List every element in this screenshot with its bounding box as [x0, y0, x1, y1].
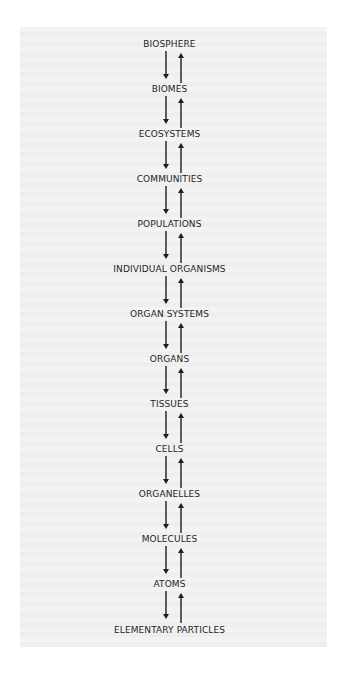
down-arrow-icon — [163, 501, 169, 529]
level-ecosystems: ECOSYSTEMS — [0, 128, 339, 140]
arrow-pair-11 — [160, 501, 188, 534]
up-arrow-icon — [178, 593, 184, 623]
down-arrow-icon — [163, 366, 169, 394]
down-arrow-icon — [163, 546, 169, 574]
arrow-pair-5 — [160, 231, 188, 264]
arrow-pair-7 — [160, 321, 188, 354]
level-organ-systems: ORGAN SYSTEMS — [0, 308, 339, 320]
arrow-pair-9 — [160, 411, 188, 444]
level-atoms: ATOMS — [0, 578, 339, 590]
arrow-pair-8 — [160, 366, 188, 399]
up-arrow-icon — [178, 368, 184, 398]
level-tissues: TISSUES — [0, 398, 339, 410]
arrow-pair-1 — [160, 51, 188, 84]
arrow-pair-10 — [160, 456, 188, 489]
level-biosphere: BIOSPHERE — [0, 38, 339, 50]
up-arrow-icon — [178, 548, 184, 578]
level-organelles: ORGANELLES — [0, 488, 339, 500]
arrow-pair-2 — [160, 96, 188, 129]
down-arrow-icon — [163, 276, 169, 304]
up-arrow-icon — [178, 458, 184, 488]
up-arrow-icon — [178, 413, 184, 443]
up-arrow-icon — [178, 278, 184, 308]
level-populations: POPULATIONS — [0, 218, 339, 230]
arrow-pair-4 — [160, 186, 188, 219]
arrow-pair-12 — [160, 546, 188, 579]
arrow-pair-3 — [160, 141, 188, 174]
down-arrow-icon — [163, 591, 169, 619]
down-arrow-icon — [163, 96, 169, 124]
down-arrow-icon — [163, 141, 169, 169]
level-communities: COMMUNITIES — [0, 173, 339, 185]
level-biomes: BIOMES — [0, 83, 339, 95]
level-individual-organisms: INDIVIDUAL ORGANISMS — [0, 263, 339, 275]
up-arrow-icon — [178, 53, 184, 83]
up-arrow-icon — [178, 503, 184, 533]
arrow-pair-6 — [160, 276, 188, 309]
up-arrow-icon — [178, 188, 184, 218]
level-molecules: MOLECULES — [0, 533, 339, 545]
down-arrow-icon — [163, 51, 169, 79]
up-arrow-icon — [178, 143, 184, 173]
arrow-pair-13 — [160, 591, 188, 624]
down-arrow-icon — [163, 186, 169, 214]
level-cells: CELLS — [0, 443, 339, 455]
down-arrow-icon — [163, 321, 169, 349]
up-arrow-icon — [178, 233, 184, 263]
down-arrow-icon — [163, 411, 169, 439]
level-elementary-particles: ELEMENTARY PARTICLES — [0, 624, 339, 636]
down-arrow-icon — [163, 231, 169, 259]
up-arrow-icon — [178, 98, 184, 128]
level-organs: ORGANS — [0, 353, 339, 365]
down-arrow-icon — [163, 456, 169, 484]
up-arrow-icon — [178, 323, 184, 353]
